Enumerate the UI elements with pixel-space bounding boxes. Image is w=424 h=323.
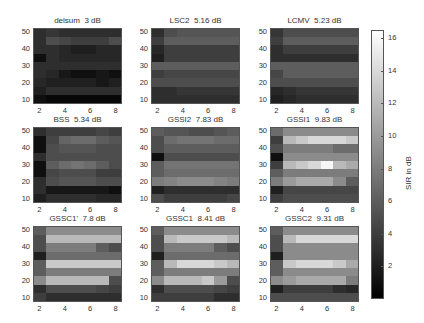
- heatmap-cell: [271, 276, 283, 284]
- heatmap-cell: [59, 243, 71, 251]
- heatmap-cell: [202, 78, 214, 86]
- heatmap-cell: [283, 136, 295, 144]
- heatmap-cell: [152, 285, 164, 293]
- heatmap-cell: [46, 62, 58, 70]
- heatmap-cell: [84, 37, 96, 45]
- heatmap-cell: [283, 153, 295, 161]
- y-tick-label: 50: [251, 126, 267, 135]
- heatmap-cell: [308, 293, 320, 301]
- heatmap-cell: [346, 169, 358, 177]
- heatmap-cell: [71, 78, 83, 86]
- heatmap-cell: [283, 95, 295, 103]
- heatmap-cell: [59, 227, 71, 235]
- heatmap-cell: [59, 285, 71, 293]
- heatmap-cell: [59, 186, 71, 194]
- heatmap-cell: [296, 136, 308, 144]
- heatmap-cell: [164, 136, 176, 144]
- heatmap-cell: [71, 268, 83, 276]
- heatmap-cell: [189, 70, 201, 78]
- heatmap-cell: [214, 153, 226, 161]
- heatmap-cell: [46, 169, 58, 177]
- heatmap-cell: [308, 285, 320, 293]
- panel-title: GSSC2 9.31 dB: [270, 214, 359, 223]
- heatmap-cell: [46, 144, 58, 152]
- heatmap-cell: [214, 285, 226, 293]
- heatmap-cell: [96, 37, 108, 45]
- heatmap-cell: [227, 227, 239, 235]
- heatmap-cell: [227, 78, 239, 86]
- heatmap-cell: [164, 95, 176, 103]
- heatmap-cell: [346, 144, 358, 152]
- heatmap-cell: [96, 252, 108, 260]
- heatmap-cell: [152, 62, 164, 70]
- heatmap-cell: [321, 54, 333, 62]
- heatmap-cell: [321, 37, 333, 45]
- heatmap-cell: [189, 227, 201, 235]
- heatmap-cell: [109, 260, 121, 268]
- heatmap-cell: [152, 177, 164, 185]
- heatmap-cell: [227, 144, 239, 152]
- heatmap-cell: [177, 87, 189, 95]
- heatmap-cell: [227, 161, 239, 169]
- heatmap-cell: [321, 78, 333, 86]
- heatmap-cell: [109, 285, 121, 293]
- heatmap-cell: [96, 62, 108, 70]
- heatmap-cell: [271, 45, 283, 53]
- x-tick-label: 4: [60, 106, 70, 115]
- y-tick-label: 10: [251, 293, 267, 302]
- heatmap-cell: [71, 276, 83, 284]
- heatmap-cell: [109, 62, 121, 70]
- heatmap-cell: [271, 78, 283, 86]
- heatmap-cell: [177, 235, 189, 243]
- heatmap-plot: [270, 28, 359, 104]
- y-tick-label: 10: [132, 95, 148, 104]
- heatmap-cell: [271, 260, 283, 268]
- heatmap-cell: [202, 177, 214, 185]
- heatmap-cell: [96, 285, 108, 293]
- heatmap-cell: [96, 128, 108, 136]
- heatmap-cell: [189, 153, 201, 161]
- heatmap-cell: [177, 186, 189, 194]
- x-tick-label: 4: [178, 106, 188, 115]
- heatmap-cell: [71, 161, 83, 169]
- heatmap-cell: [109, 177, 121, 185]
- heatmap-cell: [202, 144, 214, 152]
- x-tick-label: 8: [229, 304, 239, 313]
- heatmap-cell: [296, 29, 308, 37]
- heatmap-cell: [271, 136, 283, 144]
- heatmap-cell: [333, 95, 345, 103]
- heatmap-cell: [271, 128, 283, 136]
- heatmap-cell: [96, 87, 108, 95]
- heatmap-cell: [321, 128, 333, 136]
- heatmap-cell: [308, 54, 320, 62]
- heatmap-cell: [96, 169, 108, 177]
- heatmap-cell: [34, 169, 46, 177]
- heatmap-cell: [346, 186, 358, 194]
- heatmap-cell: [321, 144, 333, 152]
- heatmap-cell: [321, 95, 333, 103]
- heatmap-cell: [177, 169, 189, 177]
- heatmap-cell: [96, 194, 108, 202]
- heatmap-cell: [109, 70, 121, 78]
- heatmap-cell: [202, 194, 214, 202]
- heatmap-cell: [71, 128, 83, 136]
- heatmap-cell: [202, 243, 214, 251]
- heatmap-cell: [296, 293, 308, 301]
- heatmap-cell: [164, 177, 176, 185]
- heatmap-cell: [34, 243, 46, 251]
- heatmap-cell: [152, 144, 164, 152]
- heatmap-cell: [84, 235, 96, 243]
- heatmap-cell: [71, 29, 83, 37]
- heatmap-cell: [164, 285, 176, 293]
- heatmap-cell: [71, 54, 83, 62]
- heatmap-cell: [308, 136, 320, 144]
- heatmap-cell: [34, 128, 46, 136]
- heatmap-cell: [34, 62, 46, 70]
- heatmap-cell: [333, 78, 345, 86]
- x-tick-label: 2: [271, 205, 281, 214]
- x-tick-label: 4: [178, 304, 188, 313]
- heatmap-cell: [152, 169, 164, 177]
- heatmap-cell: [189, 136, 201, 144]
- heatmap-cell: [296, 235, 308, 243]
- heatmap-cell: [214, 186, 226, 194]
